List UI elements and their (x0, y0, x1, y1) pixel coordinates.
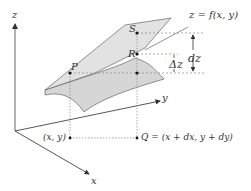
delta-z-label: Δz (169, 59, 183, 70)
x-axis-label: x (91, 176, 97, 186)
label-P: P (71, 62, 78, 72)
label-xy: (x, y) (43, 133, 66, 142)
dz-label: dz (188, 53, 201, 64)
z-axis-label: z (12, 10, 17, 20)
differential-diagram: z y x P S R z = f(x, y) dz Δz (x, y) Q =… (0, 0, 251, 191)
point-Q (136, 137, 139, 140)
surface-label: z = f(x, y) (189, 10, 238, 20)
label-S: S (129, 24, 136, 34)
point-xy (69, 137, 72, 140)
diagram-canvas (0, 0, 251, 191)
label-Q: Q = (x + dx, y + dy) (141, 133, 233, 142)
y-axis-label: y (162, 93, 168, 103)
point-lower (135, 71, 138, 74)
label-R: R (128, 49, 136, 59)
